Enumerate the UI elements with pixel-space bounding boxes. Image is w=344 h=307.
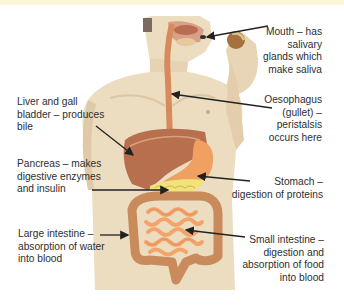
label-pancreas: Pancreas – makes digestive enzymes and i… xyxy=(17,158,101,196)
label-oesophagus: Oesophagus (gullet) – peristalsis occurs… xyxy=(262,94,322,144)
label-stomach: Stomach – digestion of proteins xyxy=(222,176,323,201)
label-small-intestine: Small intestine – digestion and absorpti… xyxy=(222,234,324,284)
label-large-intestine: Large intestine – absorption of water in… xyxy=(18,228,105,266)
label-liver: Liver and gall bladder – produces bile xyxy=(17,96,104,134)
label-mouth: Mouth – has salivary glands which make s… xyxy=(262,26,322,76)
